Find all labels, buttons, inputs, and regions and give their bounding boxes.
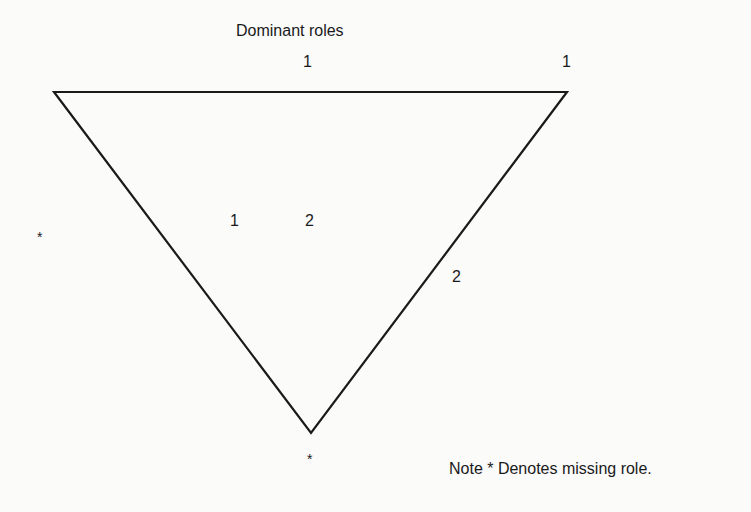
right-edge-label: 2 — [452, 268, 461, 286]
left-missing-role-marker: * — [37, 228, 42, 246]
inverted-triangle — [54, 92, 567, 433]
interior-right-label: 2 — [305, 212, 314, 230]
interior-left-label: 1 — [230, 212, 239, 230]
top-right-corner-label: 1 — [562, 53, 571, 71]
diagram-canvas — [0, 0, 751, 512]
note-text: Note * Denotes missing role. — [449, 460, 652, 478]
diagram-title: Dominant roles — [236, 22, 344, 40]
top-edge-label: 1 — [303, 53, 312, 71]
bottom-missing-role-marker: * — [307, 450, 312, 468]
